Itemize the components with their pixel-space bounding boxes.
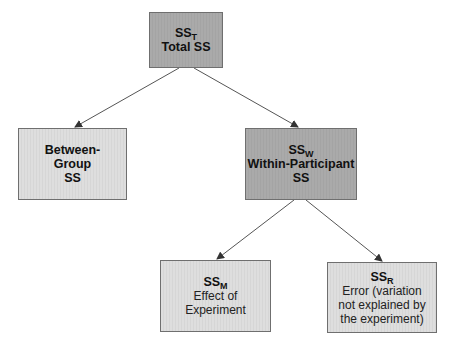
node-between-line-1: Between- [45,143,101,157]
node-between-group-ss: Between- Group SS [18,128,127,200]
node-residual-line-3: the experiment) [340,312,423,326]
node-model-symbol: SSM [203,275,227,289]
node-residual-line-1: Error (variation [342,284,421,298]
node-model-ss: SSM Effect of Experiment [160,260,271,332]
node-total-symbol: SST [175,26,197,40]
node-model-line-1: Effect of [194,289,238,303]
node-residual-symbol: SSR [370,270,393,284]
ss-partition-diagram: SST Total SS Between- Group SS SSW Withi… [0,0,453,347]
node-residual-ss: SSR Error (variation not explained by th… [327,262,437,333]
node-between-line-3: SS [64,171,81,185]
node-residual-line-2: not explained by [338,298,425,312]
node-between-line-2: Group [54,157,92,171]
node-within-line-1: Within-Participant [248,157,355,171]
node-within-symbol: SSW [288,143,313,157]
node-model-line-2: Experiment [185,303,246,317]
arrow-within-to-model [217,200,294,259]
arrow-total-to-within [194,68,298,127]
node-within-participant-ss: SSW Within-Participant SS [245,128,357,200]
node-within-line-2: SS [293,171,310,185]
node-total-label: Total SS [161,40,210,54]
arrow-within-to-residual [306,200,382,261]
arrow-total-to-between [75,68,179,127]
node-total-ss: SST Total SS [149,12,223,68]
